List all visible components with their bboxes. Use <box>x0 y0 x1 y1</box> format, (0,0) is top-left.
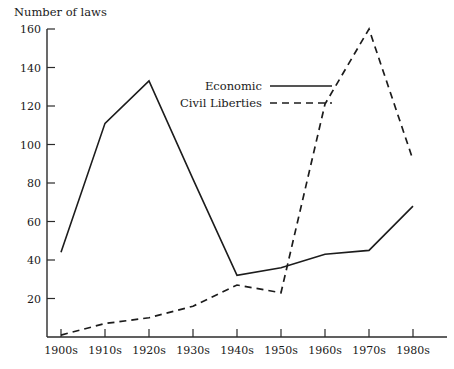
legend-label-economic: Economic <box>205 79 262 93</box>
x-tick-label: 1980s <box>396 344 430 357</box>
x-tick-label: 1920s <box>132 344 166 357</box>
series-line-economic <box>61 81 413 275</box>
y-tick-label: 140 <box>20 62 41 75</box>
x-tick-group: 1900s1910s1920s1930s1940s1950s1960s1970s… <box>44 329 430 357</box>
x-tick-label: 1960s <box>308 344 342 357</box>
y-tick-label: 60 <box>27 216 41 229</box>
x-axis: 1900s1910s1920s1930s1940s1950s1960s1970s… <box>44 329 447 357</box>
y-axis-title: Number of laws <box>14 5 107 19</box>
y-tick-label: 120 <box>20 100 41 113</box>
y-tick-label: 160 <box>20 23 41 36</box>
chart-container: Number of laws 20406080100120140160 1900… <box>0 0 454 369</box>
x-tick-label: 1950s <box>264 344 298 357</box>
legend-label-civil-liberties: Civil Liberties <box>180 96 262 110</box>
x-tick-label: 1940s <box>220 344 254 357</box>
legend: Economic Civil Liberties <box>180 79 332 110</box>
x-tick-label: 1910s <box>88 344 122 357</box>
y-tick-label: 80 <box>27 177 41 190</box>
y-tick-label: 40 <box>27 254 41 267</box>
y-tick-group: 20406080100120140160 <box>20 23 55 306</box>
y-tick-label: 20 <box>27 293 41 306</box>
series-group <box>61 29 413 335</box>
x-tick-label: 1900s <box>44 344 78 357</box>
series-line-civil-liberties <box>61 29 413 335</box>
y-axis: 20406080100120140160 <box>20 23 55 337</box>
x-tick-label: 1930s <box>176 344 210 357</box>
x-tick-label: 1970s <box>352 344 386 357</box>
line-chart: Number of laws 20406080100120140160 1900… <box>0 0 454 369</box>
y-tick-label: 100 <box>20 139 41 152</box>
